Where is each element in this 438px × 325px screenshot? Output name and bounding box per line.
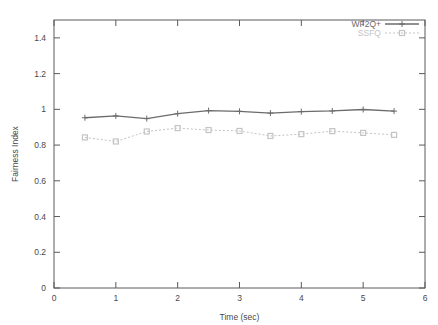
chart-canvas: 00.20.40.60.811.21.40123456Time (sec)Fai… [0,0,438,325]
y-axis: 00.20.40.60.811.21.4 [34,33,425,293]
legend-label: SSFQ [358,28,382,38]
x-tick-label: 3 [237,293,242,303]
fairness-index-chart: 00.20.40.60.811.21.40123456Time (sec)Fai… [0,0,438,325]
y-tick-label: 0.4 [34,212,46,222]
legend-entry-2: SSFQ [358,28,419,38]
x-tick-label: 5 [361,293,366,303]
x-tick-label: 6 [423,293,428,303]
y-tick-label: 1.4 [34,33,46,43]
x-axis-title: Time (sec) [220,312,260,322]
series-1 [82,107,397,122]
x-tick-label: 2 [175,293,180,303]
x-tick-label: 0 [52,293,57,303]
x-axis: 0123456 [52,20,428,303]
y-tick-label: 0.6 [34,176,46,186]
legend: WF2Q+SSFQ [351,19,419,38]
y-tick-label: 0 [41,283,46,293]
y-axis-title: Fairness Index [10,125,20,181]
y-tick-label: 1.2 [34,69,46,79]
series-line [85,128,394,141]
x-tick-label: 4 [299,293,304,303]
y-tick-label: 0.2 [34,247,46,257]
y-tick-label: 0.8 [34,140,46,150]
y-tick-label: 1 [41,104,46,114]
plot-frame [54,20,425,288]
series-2 [82,126,396,144]
x-tick-label: 1 [113,293,118,303]
